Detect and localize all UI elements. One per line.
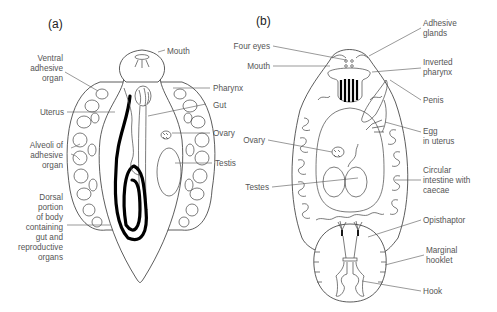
label-hook: Hook	[423, 287, 443, 296]
flatworm-anatomy-diagram: (a)	[0, 0, 497, 312]
label-ventral-adhesive-organ-1: Ventral	[38, 54, 64, 63]
label-dorsal-7: organs	[38, 253, 63, 262]
label-adhesive-glands-1: Adhesive	[423, 19, 457, 28]
label-ovary-b: Ovary	[243, 136, 266, 145]
label-uterus: Uterus	[40, 108, 64, 117]
label-gut: Gut	[213, 101, 227, 110]
panel-a: (a)	[48, 17, 215, 283]
label-pharynx-a: Pharynx	[213, 84, 243, 93]
label-dorsal-5: gut and	[36, 233, 64, 242]
label-marginal-hooklet-2: hooklet	[426, 256, 453, 265]
label-ventral-adhesive-organ-3: organ	[42, 74, 63, 83]
label-mouth-a: Mouth	[167, 47, 190, 56]
label-circular-intestine-2: intestine with	[423, 176, 471, 185]
label-circular-intestine-1: Circular	[423, 166, 451, 175]
label-alveoli-2: adhesive	[30, 151, 63, 160]
label-mouth-b: Mouth	[247, 62, 270, 71]
label-inverted-pharynx-2: pharynx	[423, 68, 452, 77]
label-four-eyes: Four eyes	[234, 42, 270, 51]
label-egg-in-uterus-1: Egg	[423, 127, 438, 136]
dorsal-body	[99, 78, 183, 283]
label-penis: Penis	[423, 96, 443, 105]
label-egg-in-uterus-2: in uterus	[423, 137, 454, 146]
panel-b-label: (b)	[256, 14, 271, 28]
label-adhesive-glands-2: glands	[423, 29, 447, 38]
label-testis: Testis	[215, 159, 236, 168]
label-ventral-adhesive-organ-2: adhesive	[30, 64, 63, 73]
label-marginal-hooklet-1: Marginal	[426, 246, 458, 255]
label-dorsal-6: reproductive	[18, 243, 64, 252]
label-dorsal-1: Dorsal	[39, 193, 63, 202]
label-dorsal-2: portion	[38, 203, 63, 212]
label-opisthaptor: Opisthaptor	[423, 216, 466, 225]
label-ovary-a: Ovary	[213, 129, 236, 138]
label-alveoli-1: Alveoli of	[30, 141, 64, 150]
label-dorsal-4: containing	[26, 223, 64, 232]
opisthaptor	[314, 221, 386, 302]
label-alveoli-3: organ	[42, 161, 63, 170]
label-testes: Testes	[245, 183, 269, 192]
label-inverted-pharynx-1: Inverted	[423, 58, 453, 67]
label-dorsal-3: of body	[36, 213, 64, 222]
panel-a-label: (a)	[48, 17, 63, 31]
label-circular-intestine-3: caecae	[423, 186, 450, 195]
